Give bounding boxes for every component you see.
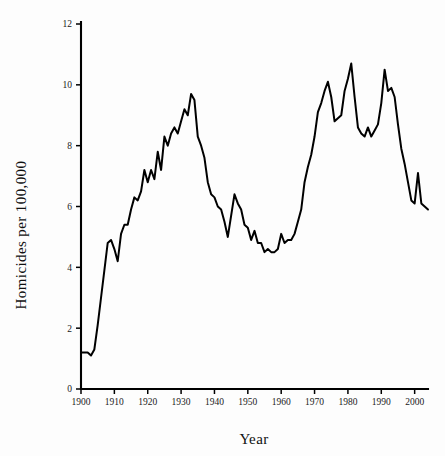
data-series-line [81, 64, 428, 356]
y-axis-tick-labels: 024681012 [63, 19, 73, 394]
x-tick-label: 1920 [138, 397, 157, 407]
x-tick-label: 1980 [338, 397, 357, 407]
y-tick-label: 12 [63, 19, 73, 29]
y-tick-label: 2 [67, 324, 72, 334]
x-tick-label: 1940 [205, 397, 224, 407]
homicide-rate-chart: 024681012 190019101920193019401950196019… [0, 0, 445, 456]
chart-canvas: 024681012 190019101920193019401950196019… [0, 0, 445, 456]
x-tick-label: 2000 [405, 397, 424, 407]
y-tick-label: 10 [63, 80, 73, 90]
x-tick-label: 1960 [272, 397, 291, 407]
x-tick-label: 1910 [105, 397, 124, 407]
x-tick-label: 1950 [238, 397, 257, 407]
x-tick-label: 1970 [305, 397, 324, 407]
x-tick-label: 1900 [72, 397, 91, 407]
y-tick-label: 0 [67, 384, 72, 394]
x-axis-title: Year [239, 431, 268, 447]
x-axis-tick-labels: 1900191019201930194019501960197019801990… [72, 397, 425, 407]
y-tick-label: 8 [67, 141, 72, 151]
x-tick-label: 1930 [172, 397, 191, 407]
y-axis-title: Homicides per 100,000 [13, 161, 29, 310]
y-tick-label: 4 [67, 263, 72, 273]
x-tick-label: 1990 [372, 397, 391, 407]
y-tick-label: 6 [67, 202, 72, 212]
